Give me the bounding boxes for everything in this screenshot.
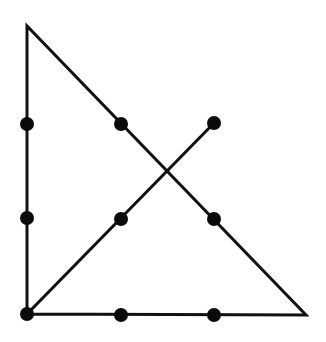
dot-r1-c0 (20, 211, 34, 225)
dot-r2-c1 (114, 308, 128, 322)
dot-r0-c1 (114, 117, 128, 131)
dot-r2-c0 (20, 307, 34, 321)
dot-r2-c2 (207, 308, 221, 322)
dot-r0-c2 (207, 116, 221, 130)
dot-r1-c1 (114, 212, 128, 226)
nine-dots-diagram (0, 0, 326, 342)
dot-r1-c2 (207, 212, 221, 226)
dot-r0-c0 (20, 117, 34, 131)
